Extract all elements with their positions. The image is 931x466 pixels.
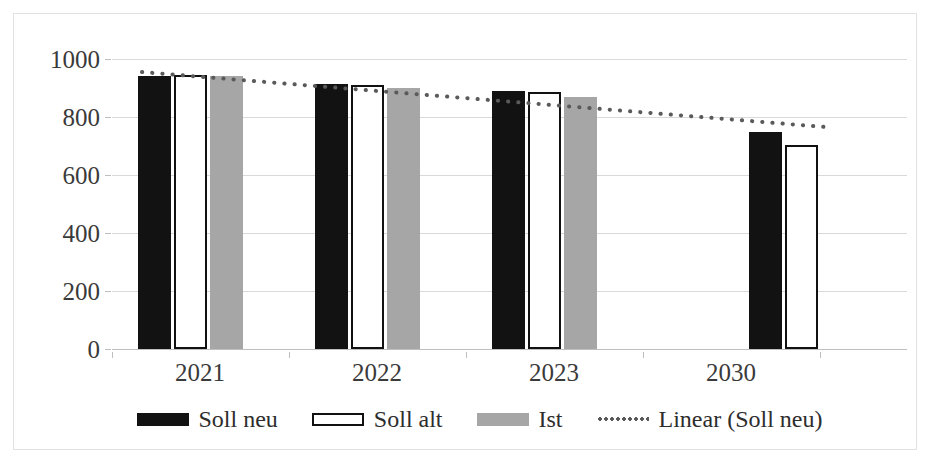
gridline-1000	[112, 59, 907, 60]
bar-soll-alt-2030[interactable]	[785, 145, 818, 349]
bar-ist-2022[interactable]	[387, 88, 420, 349]
trendline-path	[142, 72, 827, 127]
bar-soll-neu-2022[interactable]	[315, 84, 348, 349]
legend-swatch-soll-neu-icon	[137, 413, 189, 426]
bar-ist-2021[interactable]	[210, 76, 243, 349]
legend-swatch-trendline-icon	[597, 417, 649, 421]
x-axis-label-2021: 2021	[175, 360, 225, 385]
legend-item-ist[interactable]: Ist	[477, 407, 563, 431]
y-tick-1000	[105, 59, 111, 60]
bar-soll-alt-2022[interactable]	[351, 85, 384, 349]
x-tick-1	[289, 352, 290, 358]
bar-soll-neu-2023[interactable]	[492, 91, 525, 349]
legend-item-linear-soll-neu[interactable]: Linear (Soll neu)	[597, 407, 823, 431]
bar-soll-neu-2021[interactable]	[138, 76, 171, 349]
y-axis-label-0: 0	[88, 337, 101, 362]
x-tick-0	[112, 352, 113, 358]
bar-soll-alt-2021[interactable]	[174, 75, 207, 349]
x-axis-label-2022: 2022	[352, 360, 402, 385]
legend-swatch-ist-icon	[477, 413, 529, 426]
y-tick-800	[105, 117, 111, 118]
legend-item-soll-neu[interactable]: Soll neu	[137, 407, 278, 431]
chart-legend: Soll neu Soll alt Ist Linear (Soll neu)	[14, 407, 931, 431]
y-axis-label-200: 200	[63, 279, 101, 304]
x-axis-label-2030: 2030	[706, 360, 756, 385]
x-tick-4	[820, 352, 821, 358]
y-tick-600	[105, 175, 111, 176]
bar-soll-alt-2023[interactable]	[528, 92, 561, 349]
x-tick-3	[643, 352, 644, 358]
plot-area: 1000 800 600 400 200 0	[112, 59, 907, 349]
y-tick-0	[105, 349, 111, 350]
legend-item-soll-alt[interactable]: Soll alt	[312, 407, 443, 431]
chart-container: 1000 800 600 400 200 0	[0, 0, 931, 466]
legend-swatch-soll-alt-icon	[312, 413, 364, 426]
legend-label-soll-neu: Soll neu	[199, 407, 278, 431]
y-axis-label-1000: 1000	[50, 47, 100, 72]
axis-baseline	[112, 349, 907, 350]
bar-soll-neu-2030[interactable]	[749, 132, 782, 350]
chart-frame: 1000 800 600 400 200 0	[13, 13, 917, 450]
x-axis-label-2023: 2023	[529, 360, 579, 385]
x-tick-2	[466, 352, 467, 358]
y-axis-label-400: 400	[63, 221, 101, 246]
y-axis-label-800: 800	[63, 105, 101, 130]
legend-label-soll-alt: Soll alt	[374, 407, 443, 431]
bar-ist-2023[interactable]	[564, 97, 597, 349]
y-axis-label-600: 600	[63, 163, 101, 188]
y-tick-200	[105, 291, 111, 292]
y-tick-400	[105, 233, 111, 234]
x-axis: 2021 2022 2023 2030	[112, 352, 907, 392]
legend-label-ist: Ist	[539, 407, 563, 431]
legend-label-linear-soll-neu: Linear (Soll neu)	[659, 407, 823, 431]
